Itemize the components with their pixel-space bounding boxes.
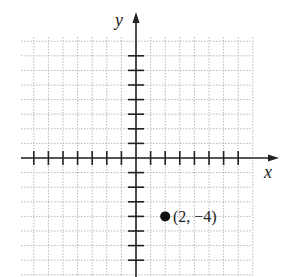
x-axis-label: x <box>263 162 272 182</box>
data-point <box>160 211 170 221</box>
axes <box>21 12 279 277</box>
coordinate-plane: y x (2, −4) <box>0 0 288 277</box>
grid <box>21 37 253 277</box>
y-axis-label: y <box>113 10 123 30</box>
point-label: (2, −4) <box>173 208 217 226</box>
